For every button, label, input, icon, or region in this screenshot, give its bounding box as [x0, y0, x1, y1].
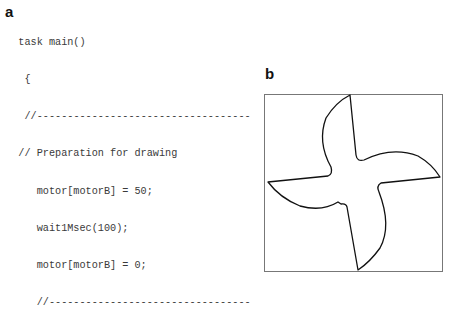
- pinwheel-drawing: [264, 94, 443, 272]
- panel-label-b: b: [265, 66, 274, 81]
- code-line: wait1Msec(100);: [0, 223, 250, 235]
- code-comment: // Preparation for drawing: [0, 148, 250, 160]
- pinwheel-outline: [268, 95, 440, 270]
- robotc-code-listing: task main() { //------------------------…: [0, 12, 250, 316]
- code-indent: [0, 37, 18, 48]
- code-line: motor[motorB] = 0;: [0, 260, 250, 272]
- code-line: task main(): [0, 37, 250, 49]
- code-separator: //----------------------------------: [0, 297, 250, 309]
- code-separator: //-------------------------------------: [0, 111, 250, 123]
- code-line: motor[motorB] = 50;: [0, 186, 250, 198]
- pinwheel-drawing-frame: [264, 94, 443, 272]
- code-line: {: [0, 74, 250, 86]
